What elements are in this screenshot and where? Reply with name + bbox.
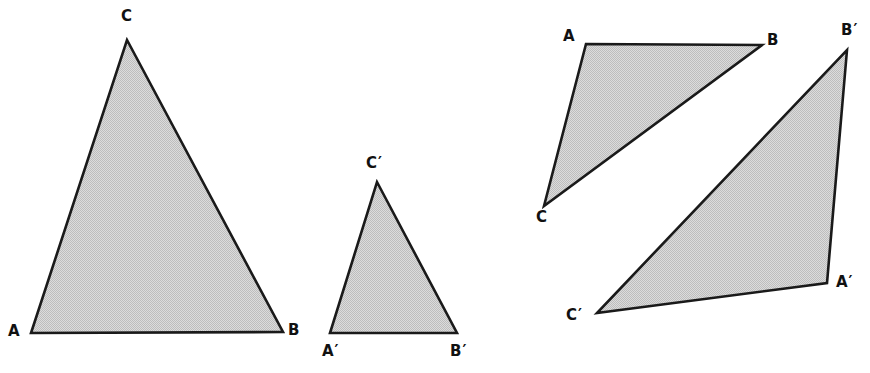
figure-canvas <box>0 0 870 373</box>
vertex-label-a-left: A <box>8 324 20 339</box>
vertex-label-c-left: C <box>121 9 133 24</box>
vertex-label-b-left: B <box>288 323 300 338</box>
vertex-label-c-prime-right: C′ <box>566 308 583 323</box>
geometry-figure: A B C A′ B′ C′ A B C A′ B′ C′ <box>0 0 870 373</box>
triangle-abc-prime-left <box>330 182 457 333</box>
vertex-label-b-right: B <box>767 33 779 48</box>
vertex-label-b-prime-left: B′ <box>450 344 467 359</box>
vertex-label-b-prime-right: B′ <box>841 23 858 38</box>
vertex-label-a-right: A <box>563 29 575 44</box>
vertex-label-a-prime-right: A′ <box>836 275 854 290</box>
vertex-label-a-prime-left: A′ <box>322 344 340 359</box>
vertex-label-c-right: C <box>536 210 548 225</box>
vertex-label-c-prime-left: C′ <box>366 156 383 171</box>
triangle-abc-left <box>31 40 283 333</box>
